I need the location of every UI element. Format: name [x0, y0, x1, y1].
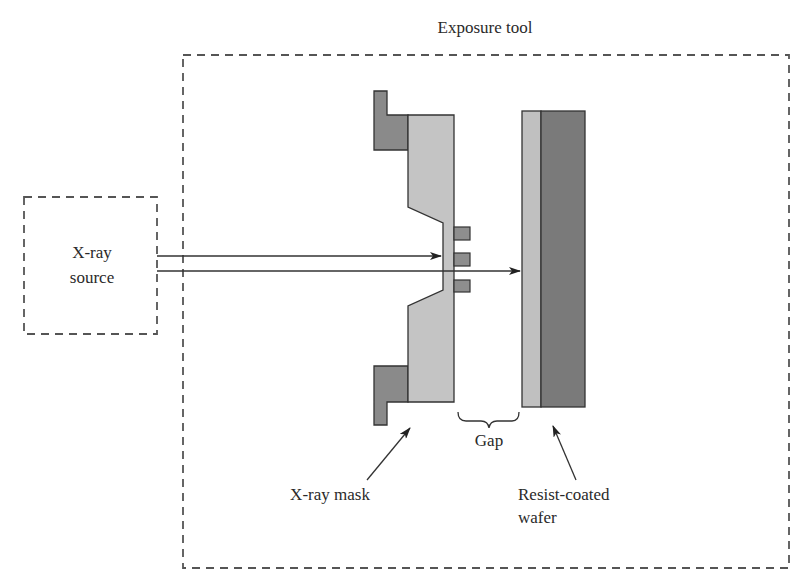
- x-ray-source-label-line1: X-ray: [72, 243, 112, 262]
- resist-layer: [522, 111, 541, 407]
- x-ray-source-box: [24, 197, 157, 334]
- x-ray-lithography-diagram: Exposure tool X-ray source Gap X-ray mas…: [0, 0, 807, 588]
- mask-holder-lower: [374, 366, 408, 425]
- gap-label: Gap: [475, 431, 503, 450]
- wafer-label-line2: wafer: [518, 508, 557, 527]
- x-ray-source-label-line2: source: [70, 268, 114, 287]
- absorber-1: [454, 227, 470, 240]
- wafer-substrate: [541, 111, 585, 407]
- exposure-tool-label: Exposure tool: [438, 18, 533, 37]
- mask-holder-upper: [374, 91, 408, 150]
- exposure-tool-box: [183, 55, 789, 568]
- x-ray-mask-membrane: [408, 115, 454, 402]
- wafer-label-line1: Resist-coated: [518, 485, 610, 504]
- x-ray-mask-label: X-ray mask: [290, 485, 370, 504]
- absorber-3: [454, 280, 470, 292]
- gap-brace: [458, 412, 519, 428]
- absorber-2: [454, 253, 470, 266]
- wafer-pointer-arrow: [553, 426, 576, 480]
- mask-pointer-arrow: [367, 428, 410, 480]
